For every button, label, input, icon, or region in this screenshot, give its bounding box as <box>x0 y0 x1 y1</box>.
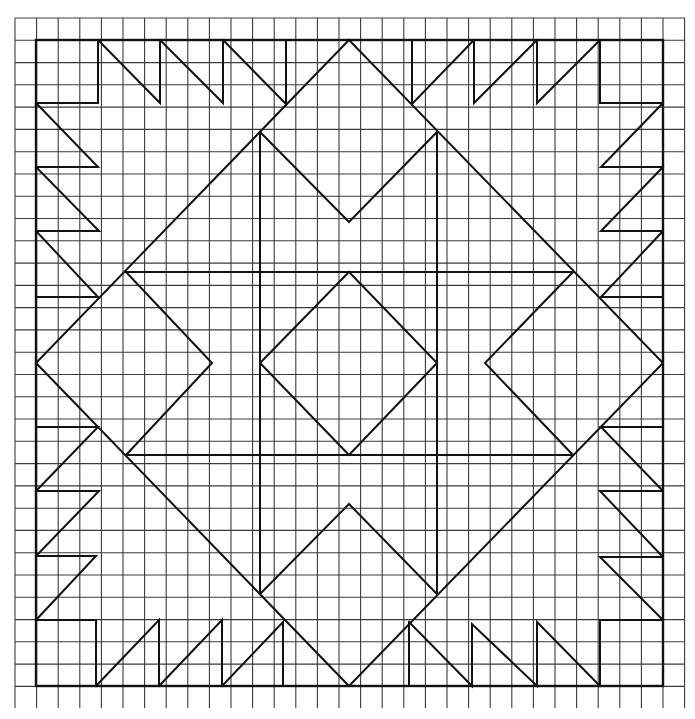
left-top-tooth-2 <box>36 167 99 231</box>
top-v <box>260 132 437 222</box>
large-diamond <box>36 40 663 686</box>
top-right-corner <box>600 40 663 103</box>
left-v <box>126 272 212 455</box>
right-bottom-tooth-2 <box>600 491 663 557</box>
right-top-tooth-2 <box>601 167 663 231</box>
left-bottom-tooth-3 <box>36 427 98 491</box>
top-left-tooth-2 <box>160 40 223 103</box>
right-bottom-tooth-1 <box>600 557 663 620</box>
right-top-tooth-1 <box>601 103 663 167</box>
right-bottom-tooth-3 <box>601 427 663 491</box>
pattern-lines <box>36 40 663 686</box>
left-bottom-tooth-1 <box>36 556 96 620</box>
block-border <box>36 40 663 686</box>
top-right-tooth-1 <box>537 40 600 103</box>
bottom-v <box>260 504 437 594</box>
right-v <box>485 272 573 455</box>
left-top-tooth-1 <box>36 103 98 167</box>
graph-paper-grid <box>15 18 685 708</box>
bottom-left-corner <box>36 620 96 686</box>
top-left-tooth-1 <box>98 40 160 103</box>
bottom-left-tooth-2 <box>159 620 222 686</box>
bottom-right-tooth-3b <box>409 622 600 686</box>
top-right-tooth-2 <box>474 40 537 103</box>
top-left-tooth-3 <box>223 40 286 104</box>
quilt-pattern-diagram <box>0 0 695 719</box>
center-diamond <box>260 272 437 455</box>
top-left-corner <box>36 40 98 103</box>
top-right-tooth-3 <box>412 40 474 104</box>
left-bottom-tooth-2 <box>36 491 99 556</box>
bottom-left-tooth-1 <box>96 620 159 686</box>
bottom-right-corner <box>600 620 663 686</box>
